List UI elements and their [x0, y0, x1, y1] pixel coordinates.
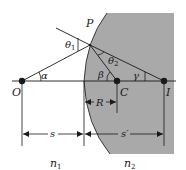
refraction-diagram: P θ1 θ2 α β γ O C I R s s′ n1 n2	[0, 0, 186, 170]
label-n2: n2	[124, 157, 136, 170]
label-s: s	[50, 128, 55, 139]
label-C: C	[120, 86, 129, 99]
center-point	[114, 78, 120, 84]
incidence-point	[89, 44, 91, 46]
image-point	[161, 78, 167, 84]
label-gamma: γ	[133, 70, 139, 81]
label-P: P	[85, 17, 94, 30]
label-theta1: θ1	[65, 39, 76, 52]
object-point	[19, 78, 25, 84]
label-s-prime: s′	[121, 128, 129, 139]
medium-n2-region	[84, 13, 174, 154]
label-n1: n1	[50, 157, 62, 170]
label-beta: β	[97, 69, 104, 80]
label-R: R	[95, 97, 104, 108]
label-alpha: α	[41, 70, 48, 81]
label-I: I	[165, 86, 171, 99]
normal-extension	[56, 28, 90, 45]
label-O: O	[12, 86, 21, 99]
incident-ray	[22, 45, 90, 81]
